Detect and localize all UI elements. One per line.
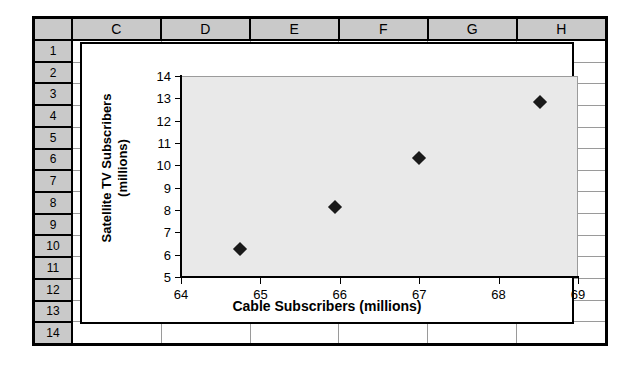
y-axis-tick xyxy=(175,232,181,233)
cell-F14[interactable] xyxy=(339,322,428,343)
column-header-f[interactable]: F xyxy=(340,19,429,39)
chart-inner: Satellite TV Subscribers(millions) 56789… xyxy=(82,44,572,322)
y-axis-tick xyxy=(175,188,181,189)
y-axis-tick-label: 14 xyxy=(141,69,171,84)
y-axis-tick-label: 10 xyxy=(141,158,171,173)
column-header-d[interactable]: D xyxy=(162,19,251,39)
y-axis-tick-label: 9 xyxy=(141,180,171,195)
y-axis-tick-label: 11 xyxy=(141,136,171,151)
x-axis-tick xyxy=(260,277,261,284)
plot-region: 567891011121314646566676869 xyxy=(181,76,578,277)
scatter-chart[interactable]: Satellite TV Subscribers(millions) 56789… xyxy=(80,42,574,324)
column-header-c[interactable]: C xyxy=(73,19,162,39)
select-all-corner[interactable] xyxy=(35,19,73,39)
screenshot-root: C D E F G H 1 2 3 4 5 6 7 8 9 10 11 12 1… xyxy=(0,0,640,391)
row-header-4[interactable]: 4 xyxy=(35,106,71,128)
y-axis-tick-label: 6 xyxy=(141,247,171,262)
x-axis-tick xyxy=(578,277,579,284)
y-axis-tick xyxy=(175,143,181,144)
x-axis-tick xyxy=(181,277,182,284)
y-axis-title-line2: (millions) xyxy=(115,139,130,197)
row-header-12[interactable]: 12 xyxy=(35,280,71,302)
column-header-g[interactable]: G xyxy=(429,19,518,39)
y-axis-tick-label: 12 xyxy=(141,113,171,128)
column-header-row: C D E F G H xyxy=(35,19,605,41)
row-header-1[interactable]: 1 xyxy=(35,41,71,63)
y-axis-tick xyxy=(175,121,181,122)
cell-C14[interactable] xyxy=(73,322,162,343)
y-axis-tick xyxy=(175,210,181,211)
y-axis-tick xyxy=(175,76,181,77)
row-header-2[interactable]: 2 xyxy=(35,63,71,85)
x-axis-tick-label: 69 xyxy=(571,287,585,302)
row-header-3[interactable]: 3 xyxy=(35,84,71,106)
y-axis-tick-label: 8 xyxy=(141,203,171,218)
y-axis-tick xyxy=(175,165,181,166)
cell-G14[interactable] xyxy=(428,322,517,343)
x-axis-tick xyxy=(419,277,420,284)
table-row[interactable] xyxy=(73,322,605,343)
row-header-11[interactable]: 11 xyxy=(35,258,71,280)
x-axis-line xyxy=(180,276,579,278)
column-header-h[interactable]: H xyxy=(518,19,605,39)
row-header-column: 1 2 3 4 5 6 7 8 9 10 11 12 13 14 xyxy=(35,41,73,343)
y-axis-title: Satellite TV Subscribers(millions) xyxy=(99,73,131,263)
y-axis-tick-label: 13 xyxy=(141,91,171,106)
row-header-9[interactable]: 9 xyxy=(35,215,71,237)
y-axis-tick-label: 7 xyxy=(141,225,171,240)
row-header-5[interactable]: 5 xyxy=(35,128,71,150)
x-axis-tick xyxy=(499,277,500,284)
row-header-6[interactable]: 6 xyxy=(35,150,71,172)
y-axis-tick xyxy=(175,98,181,99)
y-axis-tick xyxy=(175,255,181,256)
y-axis-line xyxy=(180,75,182,278)
y-axis-title-line1: Satellite TV Subscribers xyxy=(99,94,114,243)
x-axis-tick xyxy=(340,277,341,284)
row-header-7[interactable]: 7 xyxy=(35,171,71,193)
cell-D14[interactable] xyxy=(162,322,251,343)
row-header-14[interactable]: 14 xyxy=(35,323,71,343)
row-header-8[interactable]: 8 xyxy=(35,193,71,215)
cell-H14[interactable] xyxy=(517,322,605,343)
row-header-10[interactable]: 10 xyxy=(35,236,71,258)
row-header-13[interactable]: 13 xyxy=(35,302,71,324)
cell-E14[interactable] xyxy=(251,322,340,343)
column-header-e[interactable]: E xyxy=(251,19,340,39)
x-axis-title: Cable Subscribers (millions) xyxy=(82,298,572,314)
y-axis-tick-label: 5 xyxy=(141,270,171,285)
